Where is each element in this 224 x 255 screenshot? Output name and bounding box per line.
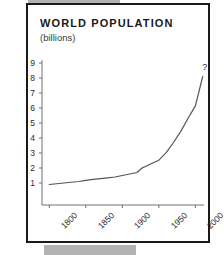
x-axis-tick-label: 2000 [206, 211, 224, 230]
y-axis-tick-label: 3 [21, 149, 35, 158]
y-axis-tick-label: 6 [21, 104, 35, 113]
y-axis-tick-label: 1 [21, 179, 35, 188]
plot-area: 12345678918001850190019502000? [28, 5, 208, 241]
population-line [49, 77, 202, 185]
population-line-chart [28, 5, 208, 241]
y-axis-tick-label: 5 [21, 119, 35, 128]
chart-figure: WORLD POPULATION (billions) 123456789180… [26, 3, 210, 243]
question-mark-annotation: ? [202, 63, 207, 72]
y-axis-tick-label: 4 [21, 134, 35, 143]
y-axis-tick-label: 9 [21, 59, 35, 68]
y-axis-tick-label: 7 [21, 89, 35, 98]
y-axis-tick-label: 8 [21, 74, 35, 83]
decorative-tab-bottom [44, 245, 136, 255]
y-axis-tick-label: 2 [21, 164, 35, 173]
